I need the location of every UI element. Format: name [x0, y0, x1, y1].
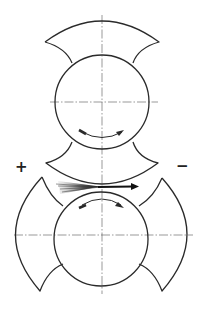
roll-diagram [0, 0, 200, 312]
lower-rotation-arrow-icon [79, 199, 124, 208]
lower-roll [54, 192, 148, 286]
left-pole [15, 177, 63, 291]
upper-rotation-arrow-icon [79, 130, 124, 138]
negative-polarity-label: − [176, 159, 189, 174]
right-pole [139, 178, 187, 291]
centerlines [14, 15, 193, 294]
positive-polarity-label: + [15, 160, 28, 175]
